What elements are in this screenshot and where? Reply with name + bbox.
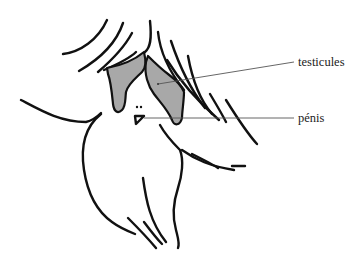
body-outline-lower bbox=[83, 114, 245, 248]
label-testicules: testicules bbox=[298, 56, 345, 69]
penis-glyph bbox=[135, 106, 144, 124]
diagram-canvas: testicules pénis bbox=[0, 0, 361, 265]
anatomical-drawing bbox=[0, 0, 361, 265]
label-penis: pénis bbox=[298, 112, 324, 125]
right-testicle-shape bbox=[145, 56, 184, 124]
left-outer-curve bbox=[21, 100, 101, 122]
testicules-leader-dot bbox=[157, 83, 159, 85]
testicules-leader-line bbox=[158, 62, 294, 84]
left-testicle-shape bbox=[107, 52, 145, 112]
